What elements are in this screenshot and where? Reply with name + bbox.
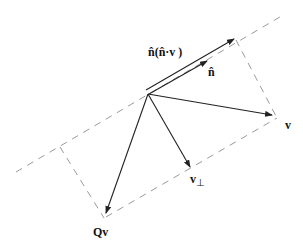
qv-projection-drop (60, 147, 104, 218)
lower-plane-line (106, 118, 277, 217)
householder-diagram: n̂(n̂·v ) n̂ v v⊥ Qv (0, 0, 303, 252)
v-arrow (148, 94, 272, 115)
qv-arrow (106, 94, 148, 213)
vectors (106, 39, 272, 213)
normal-arrow (149, 61, 207, 94)
v-projection-drop (236, 40, 277, 118)
v-perp-label: v⊥ (190, 172, 205, 188)
v-label: v (285, 118, 291, 132)
projection-label: n̂(n̂·v ) (148, 45, 182, 59)
qv-label: Qv (93, 225, 108, 239)
normal-label: n̂ (208, 65, 215, 79)
v-perp-arrow (148, 94, 190, 167)
